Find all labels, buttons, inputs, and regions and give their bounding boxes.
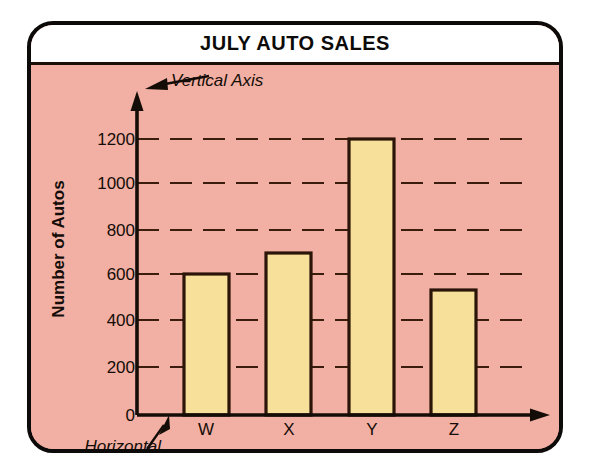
chart-title-band: JULY AUTO SALES <box>31 25 559 65</box>
chart-figure: JULY AUTO SALES <box>0 0 590 472</box>
bar-Y <box>349 139 394 415</box>
y-axis-ticks: 1200 1000 800 600 400 200 0 <box>71 65 135 451</box>
y-tick-label-600: 600 <box>107 266 135 283</box>
plot-area: 1200 1000 800 600 400 200 0 Number of Au… <box>31 65 559 449</box>
annotation-horizontal-axis-line1: Horizontal <box>37 437 161 453</box>
y-tick-label-800: 800 <box>107 222 135 239</box>
x-tick-label-Z: Z <box>419 420 489 440</box>
bar-X <box>266 253 311 415</box>
annotation-vertical-axis: Vertical Axis <box>171 71 263 91</box>
y-tick-label-1000: 1000 <box>97 175 135 192</box>
x-axis-title: Auto Companies <box>181 447 481 453</box>
x-tick-label-Y: Y <box>337 420 407 440</box>
y-tick-label-400: 400 <box>107 312 135 329</box>
x-tick-label-X: X <box>254 420 324 440</box>
y-tick-label-0: 0 <box>126 407 135 424</box>
x-tick-label-W: W <box>171 420 241 440</box>
chart-frame: JULY AUTO SALES <box>27 21 563 453</box>
bars <box>184 139 476 415</box>
annotation-horizontal-axis: Horizontal Axis <box>37 437 161 453</box>
y-axis-title: Number of Autos <box>49 159 69 339</box>
y-tick-label-1200: 1200 <box>97 131 135 148</box>
chart-title: JULY AUTO SALES <box>200 32 390 55</box>
bar-W <box>184 274 229 415</box>
y-tick-label-200: 200 <box>107 359 135 376</box>
bar-Z <box>431 290 476 415</box>
